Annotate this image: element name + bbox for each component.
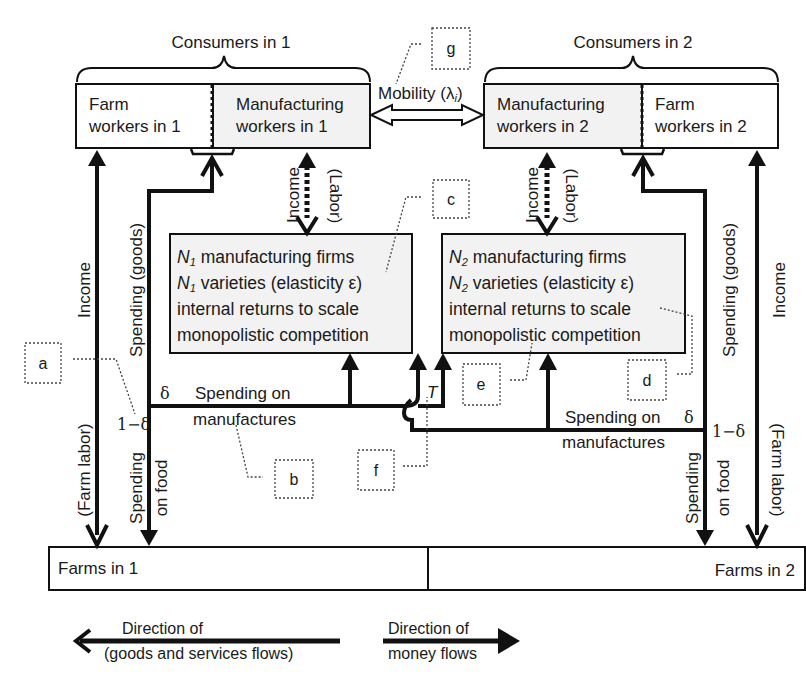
farm-workers-2-label-line2: workers in 2: [654, 117, 747, 136]
spending-food-1-label-line2: on food: [152, 460, 171, 517]
income-2-label: Income: [770, 262, 789, 318]
manuf-workers-1-label-line1: Manufacturing: [236, 95, 344, 114]
manuf-spend-2-arrowhead-icon: [539, 353, 557, 370]
mobility-arrow-group: Mobility (λi): [371, 84, 483, 125]
spending-goods-1-label: Spending (goods): [127, 223, 146, 357]
labor-manuf-1-label: (Labor): [326, 169, 345, 224]
firms-2-line1: N2 manufacturing firms: [449, 247, 627, 268]
callout-c: c: [447, 191, 455, 208]
consumers-1-brace: [77, 56, 370, 82]
spending-goods-2-label: Spending (goods): [720, 223, 739, 357]
income-manuf-1-label: Income: [284, 167, 303, 223]
manufacturing-workers-1-box: [213, 84, 370, 148]
callout-b: b: [290, 471, 299, 488]
consumers-1-group: Consumers in 1 Farm workers in 1 Manufac…: [76, 33, 370, 154]
manuf-workers-1-label-line2: workers in 1: [235, 117, 328, 136]
firms-2-line2: N2 varieties (elasticity ε): [449, 273, 634, 294]
spending-food-2-label-line1: Spending: [683, 452, 702, 524]
manufactures-2-label: manufactures: [562, 433, 665, 452]
labor-manuf-2-label: (Labor): [562, 169, 581, 224]
manuf-spend-1c-arrowhead-icon: [434, 353, 452, 370]
firms-2-line4: monopolistic competition: [449, 325, 641, 345]
money-direction-arrow-icon: [498, 628, 520, 654]
spending-food-2-label-line2: on food: [714, 460, 733, 517]
spending-on-2-label: Spending on: [565, 408, 660, 427]
income-manuf-2-label: Income: [523, 167, 542, 223]
spending-food-1-arrowhead-icon: [140, 530, 158, 546]
consumers-2-bracket: [621, 149, 664, 154]
manufactures-1-label: manufactures: [193, 410, 296, 429]
legend: Direction of (goods and services flows) …: [76, 620, 520, 662]
farm-workers-1-label-line2: workers in 1: [88, 117, 181, 136]
farm-workers-1-box: [76, 84, 213, 148]
consumers-2-group: Consumers in 2 Manufacturing workers in …: [484, 33, 778, 154]
firms-2-line3: internal returns to scale: [449, 299, 631, 319]
economic-geography-diagram: Consumers in 1 Farm workers in 1 Manufac…: [0, 0, 806, 694]
legend-goods-line2: (goods and services flows): [104, 645, 293, 662]
firms-1-line1: N1 manufacturing firms: [177, 247, 355, 268]
farm-workers-1-label-line1: Farm: [89, 95, 129, 114]
farms-1-label: Farms in 1: [58, 559, 138, 578]
mobility-double-arrow-icon: [371, 105, 483, 125]
consumers-2-brace: [485, 56, 778, 82]
income-1-label: Income: [75, 262, 94, 318]
consumers-1-title: Consumers in 1: [171, 33, 290, 52]
manuf-workers-2-label-line2: workers in 2: [496, 117, 589, 136]
legend-money-line2: money flows: [388, 645, 477, 662]
one-minus-delta-2-label: 1−δ: [712, 422, 745, 441]
one-minus-delta-1-label: 1−δ: [117, 415, 150, 434]
income-1-arrowhead-icon: [88, 150, 106, 166]
firms-1-line3: internal returns to scale: [177, 299, 359, 319]
farm-workers-2-box: [642, 84, 778, 148]
firms-1-box: N1 manufacturing firms N1 varieties (ela…: [170, 234, 412, 353]
transport-cost-label: T: [427, 383, 439, 402]
consumers-2-title: Consumers in 2: [573, 33, 692, 52]
farms-box: Farms in 1 Farms in 2: [49, 547, 805, 590]
spending-on-1-label: Spending on: [195, 384, 290, 403]
delta-2-label: δ: [684, 408, 694, 427]
legend-money-line1: Direction of: [388, 620, 469, 637]
spending-food-1-label-line1: Spending: [127, 452, 146, 524]
manuf-workers-2-label-line1: Manufacturing: [497, 95, 605, 114]
firms-1-line4: monopolistic competition: [177, 325, 369, 345]
consumers-1-bracket: [191, 149, 234, 154]
callout-e: e: [477, 376, 486, 393]
callout-f: f: [374, 462, 379, 479]
farm-labor-2-label: (Farm labor): [768, 423, 787, 517]
manuf-spend-1a-arrowhead-icon: [341, 353, 359, 370]
firms-2-box: N2 manufacturing firms N2 varieties (ela…: [442, 234, 685, 353]
farm-labor-1-label: (Farm labor): [75, 423, 94, 517]
income-manuf-2-arrowhead-icon: [538, 152, 556, 168]
legend-goods-line1: Direction of: [122, 620, 203, 637]
firms-1-line2: N1 varieties (elasticity ε): [177, 273, 362, 294]
callout-g: g: [447, 40, 456, 57]
farms-2-label: Farms in 2: [715, 561, 795, 580]
income-manuf-1-arrowhead-icon: [298, 152, 316, 168]
spending-food-2-arrowhead-icon: [696, 530, 714, 546]
income-2-arrowhead-icon: [748, 150, 766, 166]
callout-a: a: [39, 355, 48, 372]
manufacturing-workers-2-box: [484, 84, 642, 148]
callout-d: d: [643, 372, 652, 389]
delta-1-label: δ: [160, 384, 170, 403]
mobility-label: Mobility (λi): [378, 84, 463, 104]
farm-workers-2-label-line1: Farm: [655, 95, 695, 114]
manuf-spend-1b-arrowhead-icon: [409, 353, 427, 370]
